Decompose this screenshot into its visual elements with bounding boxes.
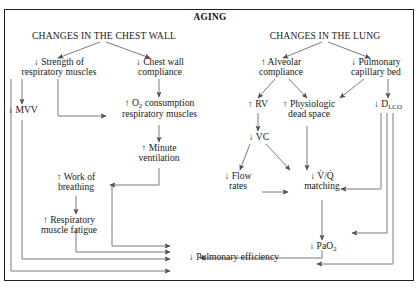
node-line: ↓ DLCO [362, 99, 414, 110]
node-line: rates [212, 181, 264, 191]
node-line: respiratory muscles [0, 67, 118, 77]
node-line: ↓ Pulmonary efficiency [170, 252, 298, 262]
node-chest-wall-compliance: ↓ Chest wall compliance [112, 57, 208, 78]
node-dlco: ↓ DLCO [362, 99, 414, 110]
node-line: muscle fatigue [26, 225, 112, 235]
node-line: respiratory muscles [107, 109, 212, 119]
node-line: ↓ MVV [2, 105, 44, 115]
node-line: ↓ PaO2 [296, 241, 350, 252]
node-work-of-breathing: ↑ Work of breathing [38, 172, 114, 193]
node-line: breathing [38, 182, 114, 192]
node-line: ↑ RV [238, 99, 278, 109]
node-minute-ventilation: ↑ Minute ventilation [118, 143, 200, 164]
node-pao2: ↓ PaO2 [296, 241, 350, 252]
node-vc: ↓ VC [238, 132, 280, 142]
node-physiologic-dead-space: ↑ Physiologic dead space [274, 99, 344, 120]
node-mvv: ↓ MVV [2, 105, 44, 115]
node-line: ↓ VC [238, 132, 280, 142]
node-line: compliance [112, 67, 208, 77]
node-rv: ↑ RV [238, 99, 278, 109]
node-o2-consumption-respiratory-muscles: ↑ O2 consumption respiratory muscles [107, 98, 212, 119]
node-text: ↓ D [374, 98, 388, 109]
node-vq-matching: ↓ V̇/Q̇ matching [288, 171, 356, 192]
node-strength-of-respiratory-muscles: ↓ Strength of respiratory muscles [0, 57, 118, 78]
node-flow-rates: ↓ Flow rates [212, 171, 264, 192]
node-respiratory-muscle-fatigue: ↑ Respiratory muscle fatigue [26, 215, 112, 236]
diagram-page: AGING CHANGES IN THE CHEST WALL CHANGES … [0, 0, 419, 288]
node-alveolar-compliance: ↑ Alveolar compliance [240, 57, 322, 78]
node-text: consumption [142, 97, 194, 108]
node-line: matching [288, 181, 356, 191]
node-pulmonary-efficiency: ↓ Pulmonary efficiency [170, 252, 298, 262]
node-line: capillary bed [335, 67, 417, 77]
connector-layer [0, 0, 419, 288]
subscript: LCO [388, 103, 402, 110]
node-line: compliance [240, 67, 322, 77]
node-text: ↑ O [125, 97, 139, 108]
node-text: ↓ PaO [309, 240, 333, 251]
node-pulmonary-capillary-bed: ↓ Pulmonary capillary bed [335, 57, 417, 78]
node-line: dead space [274, 109, 344, 119]
subscript: 2 [333, 245, 336, 252]
node-line: ventilation [118, 153, 200, 163]
